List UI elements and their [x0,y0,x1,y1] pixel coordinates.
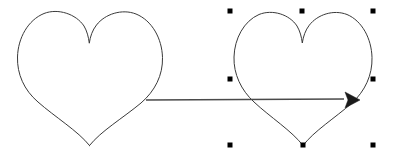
arrow-connector-line[interactable] [146,99,344,100]
handle-top-center[interactable] [300,9,305,14]
handle-bottom-center[interactable] [301,143,306,148]
vector-drawing-surface[interactable] [0,0,393,158]
handle-bottom-right[interactable] [371,143,376,148]
heart-shape-right[interactable] [234,12,372,145]
handle-top-right[interactable] [371,9,376,14]
drawing-canvas[interactable] [0,0,393,158]
heart-shape-left[interactable] [17,11,162,145]
handle-middle-right[interactable] [371,77,376,82]
handle-bottom-left[interactable] [228,143,233,148]
arrow-connector-head[interactable] [345,92,360,108]
handle-middle-left[interactable] [228,77,233,82]
handle-top-left[interactable] [228,9,233,14]
